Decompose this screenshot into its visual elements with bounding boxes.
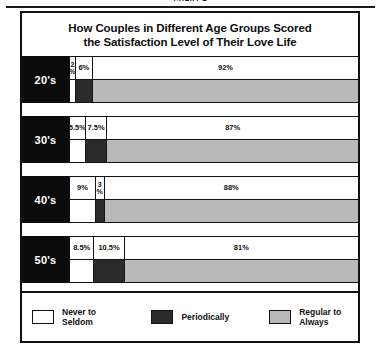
legend-swatch-never-to-seldom	[32, 310, 54, 324]
stacked-bar-30s	[69, 140, 358, 163]
value-label-periodic-30s: 7.5%	[86, 117, 108, 139]
bar-zone-30s: 5.5% 7.5% 87%	[69, 116, 358, 163]
value-label-regular-20s: 92%	[93, 57, 358, 79]
value-label-never-50s: 8.5%	[70, 237, 94, 259]
age-label-30s: 30's	[22, 116, 69, 163]
bar-segment-periodic-30s	[86, 140, 108, 162]
stacked-bar-40s	[69, 200, 358, 223]
bar-segment-regular-50s	[125, 260, 358, 282]
bar-segment-periodic-40s	[96, 200, 105, 222]
bar-segment-regular-20s	[93, 80, 358, 102]
value-label-regular-40s: 88%	[105, 177, 358, 199]
chart-title: How Couples in Different Age Groups Scor…	[32, 22, 348, 49]
value-label-strip-20s: 2 % 6% 92%	[69, 56, 358, 80]
bar-segment-never-40s	[70, 200, 96, 222]
bar-segment-regular-40s	[105, 200, 358, 222]
top-divider	[6, 6, 375, 8]
bar-segment-never-50s	[70, 260, 94, 282]
legend-swatch-regular-to-always	[269, 310, 291, 324]
value-label-strip-50s: 8.5% 10.5% 81%	[69, 236, 358, 260]
bar-segment-periodic-20s	[76, 80, 93, 102]
bar-group-20s: 20's 2 % 6% 92%	[22, 56, 358, 103]
legend-item-never-to-seldom: Never to Seldom	[32, 307, 115, 327]
legend-label-never-to-seldom: Never to Seldom	[62, 307, 115, 327]
value-label-strip-30s: 5.5% 7.5% 87%	[69, 116, 358, 140]
bar-group-50s: 50's 8.5% 10.5% 81%	[22, 236, 358, 283]
chart-root: CHART A How Couples in Different Age Gro…	[0, 0, 381, 353]
chart-frame: How Couples in Different Age Groups Scor…	[20, 11, 360, 343]
value-label-never-30s: 5.5%	[70, 117, 86, 139]
legend-item-periodically: Periodically	[151, 310, 229, 324]
legend-item-regular-to-always: Regular to Always	[269, 307, 358, 327]
age-label-40s: 40's	[22, 176, 69, 223]
value-label-periodic-20s: 6%	[76, 57, 93, 79]
bar-segment-regular-30s	[107, 140, 358, 162]
bar-zone-50s: 8.5% 10.5% 81%	[69, 236, 358, 283]
bar-zone-40s: 9% 3 % 88%	[69, 176, 358, 223]
stacked-bar-50s	[69, 260, 358, 283]
chart-title-line-1: How Couples in Different Age Groups Scor…	[32, 22, 348, 36]
chart-title-line-2: the Satisfaction Level of Their Love Lif…	[32, 36, 348, 50]
age-label-50s: 50's	[22, 236, 69, 283]
value-label-periodic-50s: 10.5%	[94, 237, 124, 259]
age-label-20s: 20's	[22, 56, 69, 103]
value-label-never-40s: 9%	[70, 177, 96, 199]
chart-caption: CHART A	[0, 0, 381, 1]
value-label-regular-50s: 81%	[125, 237, 358, 259]
bar-group-40s: 40's 9% 3 % 88%	[22, 176, 358, 223]
chart-legend: Never to Seldom Periodically Regular to …	[22, 291, 358, 341]
legend-swatch-periodically	[151, 310, 173, 324]
bar-zone-20s: 2 % 6% 92%	[69, 56, 358, 103]
value-label-strip-40s: 9% 3 % 88%	[69, 176, 358, 200]
bar-group-30s: 30's 5.5% 7.5% 87%	[22, 116, 358, 163]
value-label-periodic-40s: 3 %	[96, 177, 105, 199]
bar-segment-never-30s	[70, 140, 86, 162]
legend-label-periodically: Periodically	[181, 312, 229, 322]
bar-segment-periodic-50s	[94, 260, 124, 282]
legend-label-regular-to-always: Regular to Always	[299, 307, 358, 327]
stacked-bar-20s	[69, 80, 358, 103]
value-label-regular-30s: 87%	[107, 117, 358, 139]
chart-plot-area: 20's 2 % 6% 92% 30's	[22, 56, 358, 293]
